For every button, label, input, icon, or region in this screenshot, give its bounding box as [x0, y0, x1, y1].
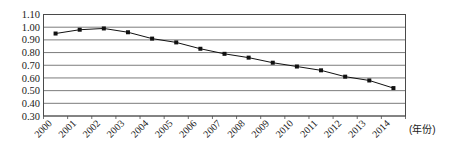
data-point-marker [126, 30, 130, 34]
data-point-marker [319, 68, 323, 72]
y-axis-tick-label: 1.00 [22, 22, 40, 33]
data-point-marker [198, 47, 202, 51]
data-point-marker [247, 56, 251, 60]
data-point-marker [295, 65, 299, 69]
data-point-markers [54, 26, 396, 90]
line-chart: 1.101.000.900.800.700.600.500.400.30 200… [0, 0, 452, 152]
chart-canvas: 1.101.000.900.800.700.600.500.400.30 200… [0, 0, 452, 152]
data-point-marker [102, 26, 106, 30]
x-axis-tick-label: 2013 [346, 118, 368, 140]
data-point-marker [78, 28, 82, 32]
y-axis-tick-label: 1.10 [22, 9, 40, 20]
x-axis-tick-label: 2003 [104, 118, 126, 140]
x-axis-tick-label: 2014 [370, 118, 392, 140]
y-axis-tick-label: 0.70 [22, 60, 40, 71]
x-axis-unit-annotation: (年份) [409, 123, 436, 135]
x-axis-tick-label: 2008 [225, 118, 247, 140]
data-point-marker [174, 40, 178, 44]
data-point-marker [271, 61, 275, 65]
data-point-marker [223, 52, 227, 56]
x-axis-tick-label: 2006 [177, 118, 199, 140]
x-axis-tick-label: 2001 [56, 118, 78, 140]
x-axis-tick-label: 2002 [80, 118, 102, 140]
x-axis-tick-label: 2005 [153, 118, 175, 140]
y-axis-tick-labels: 1.101.000.900.800.700.600.500.400.30 [22, 9, 40, 122]
x-axis-tick-label: 2012 [322, 118, 344, 140]
x-axis-tick-label: 2011 [298, 118, 320, 140]
data-point-marker [391, 86, 395, 90]
y-axis-tick-label: 0.90 [22, 34, 40, 45]
gridline-group [44, 27, 406, 116]
x-axis-tick-labels: 2000200120022003200420052006200720082009… [32, 118, 392, 140]
x-axis-tick-label: 2007 [201, 118, 223, 140]
data-point-marker [343, 75, 347, 79]
y-axis-tick-label: 0.60 [22, 73, 40, 84]
x-axis-tick-label: 2009 [249, 118, 271, 140]
y-axis-tick-label: 0.80 [22, 47, 40, 58]
data-point-marker [54, 32, 58, 36]
data-point-marker [150, 37, 154, 41]
y-axis-tick-label: 0.40 [22, 98, 40, 109]
x-axis-tick-label: 2004 [129, 118, 151, 140]
x-axis-tick-label: 2010 [273, 118, 295, 140]
y-axis-tick-label: 0.30 [22, 111, 40, 122]
data-point-marker [367, 78, 371, 82]
data-series-line [56, 28, 394, 88]
y-axis-tick-label: 0.50 [22, 85, 40, 96]
